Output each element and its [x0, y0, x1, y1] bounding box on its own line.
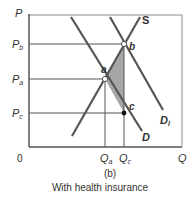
pa-label: Pa [12, 73, 23, 86]
point-b-label: b [129, 41, 135, 52]
point-b [121, 41, 126, 46]
panel-label: (b) [104, 168, 116, 179]
point-a [102, 76, 107, 81]
caption: With health insurance [52, 182, 149, 193]
x-axis-label: Q [178, 152, 187, 164]
demand-label: D [142, 131, 150, 143]
pb-label: Pb [12, 38, 23, 51]
health-insurance-diagram: P Q 0 Pb Pa Pc Qa Qc S D DI b a c (b) Wi… [0, 0, 192, 198]
origin-label: 0 [17, 153, 23, 164]
qc-label: Qc [119, 152, 132, 165]
point-c-label: c [129, 101, 135, 112]
insured-demand-label: DI [160, 114, 171, 127]
point-c [122, 111, 127, 116]
y-axis-label: P [15, 7, 23, 19]
point-a-label: a [101, 64, 107, 75]
qa-label: Qa [100, 152, 113, 165]
pc-label: Pc [12, 107, 23, 120]
supply-label: S [142, 14, 149, 26]
